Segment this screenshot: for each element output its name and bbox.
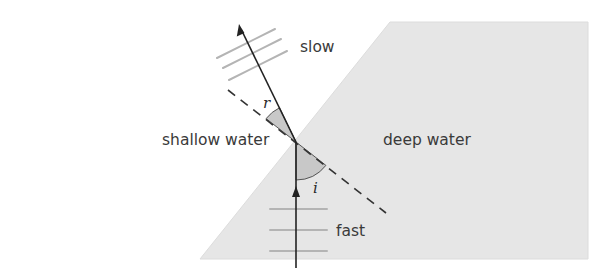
refracted-wavefront-line bbox=[217, 29, 275, 58]
refracted-wavefronts bbox=[217, 29, 287, 80]
slow-label: slow bbox=[300, 38, 335, 56]
fast-label: fast bbox=[336, 222, 365, 240]
refraction-angle-label: r bbox=[263, 94, 271, 112]
deep-water-label: deep water bbox=[383, 131, 471, 149]
incidence-angle-label: i bbox=[313, 179, 318, 197]
refracted-wavefront-line bbox=[223, 39, 281, 68]
shallow-water-label: shallow water bbox=[162, 131, 270, 149]
refraction-diagram: slow fast shallow water deep water r i bbox=[0, 0, 604, 280]
